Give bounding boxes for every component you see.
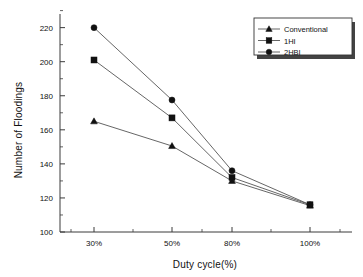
data-point bbox=[169, 97, 175, 103]
x-tick-label: 50% bbox=[164, 239, 180, 248]
x-tick-label: 80% bbox=[224, 239, 240, 248]
data-point bbox=[229, 168, 235, 174]
chart-legend: Conventional1HI2HBI bbox=[254, 18, 355, 59]
chart-container: Number of Floodings Duty cycle(%) 100120… bbox=[0, 0, 363, 277]
y-tick-label: 100 bbox=[40, 228, 54, 237]
circle-marker-icon bbox=[266, 49, 272, 55]
data-point bbox=[91, 57, 97, 63]
square-marker-icon bbox=[266, 38, 272, 44]
x-axis-title: Duty cycle(%) bbox=[173, 259, 237, 270]
x-tick-label: 100% bbox=[300, 239, 320, 248]
y-tick-label: 200 bbox=[40, 58, 54, 67]
data-point bbox=[91, 118, 98, 124]
series-1hi bbox=[91, 57, 313, 208]
data-point bbox=[307, 202, 313, 208]
y-tick-label: 220 bbox=[40, 24, 54, 33]
legend-item-label: 1HI bbox=[284, 37, 296, 46]
x-axis-ticks: 30%50%80%100% bbox=[71, 227, 340, 248]
y-tick-label: 140 bbox=[40, 160, 54, 169]
y-tick-label: 120 bbox=[40, 194, 54, 203]
y-tick-label: 160 bbox=[40, 126, 54, 135]
data-point bbox=[229, 175, 235, 181]
y-axis-ticks: 100120140160180200220 bbox=[40, 11, 65, 237]
y-axis-title: Number of Floodings bbox=[13, 82, 24, 179]
x-tick-label: 30% bbox=[86, 239, 102, 248]
data-point bbox=[91, 25, 97, 31]
legend-item-label: 2HBI bbox=[284, 48, 301, 57]
legend-item-label: Conventional bbox=[284, 25, 328, 34]
data-point bbox=[169, 115, 175, 121]
y-tick-label: 180 bbox=[40, 92, 54, 101]
line-chart: Number of Floodings Duty cycle(%) 100120… bbox=[0, 0, 363, 277]
